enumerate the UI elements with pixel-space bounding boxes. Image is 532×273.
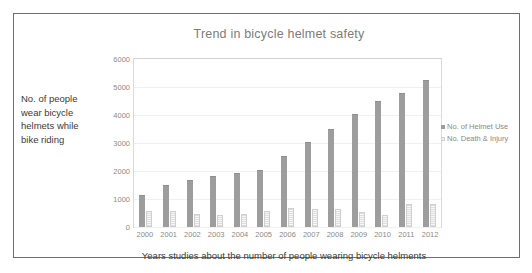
bar-death-injury[interactable] xyxy=(194,214,200,227)
x-axis-tick: 2011 xyxy=(394,230,418,239)
x-axis-tick: 2001 xyxy=(157,230,181,239)
bar-helmet-use[interactable] xyxy=(210,176,216,227)
legend-item-death-injury[interactable]: No. Death & Injury xyxy=(441,134,532,143)
chart-title: Trend in bicycle helmet safety xyxy=(114,27,444,41)
bar-death-injury[interactable] xyxy=(335,209,341,227)
x-axis-tick: 2012 xyxy=(418,230,442,239)
y-axis-tick: 2000 xyxy=(100,167,130,176)
bar-group xyxy=(228,59,252,227)
chart-legend: No. of Helmet Use No. Death & Injury xyxy=(441,122,532,146)
y-axis-tick: 5000 xyxy=(100,83,130,92)
bar-group xyxy=(417,59,441,227)
bar-death-injury[interactable] xyxy=(288,208,294,227)
bar-death-injury[interactable] xyxy=(312,209,318,227)
bar-helmet-use[interactable] xyxy=(281,156,287,227)
gridline xyxy=(134,227,441,228)
x-axis-tick: 2004 xyxy=(228,230,252,239)
legend-swatch-icon xyxy=(441,137,445,141)
chart-frame: Trend in bicycle helmet safety No. of pe… xyxy=(13,13,520,258)
x-axis-tick: 2003 xyxy=(204,230,228,239)
bar-group xyxy=(370,59,394,227)
x-axis-tick-labels: 2000200120022003200420052006200720082009… xyxy=(133,230,442,239)
bar-death-injury[interactable] xyxy=(406,204,412,227)
bar-death-injury[interactable] xyxy=(146,211,152,227)
bar-helmet-use[interactable] xyxy=(375,101,381,227)
bar-group xyxy=(299,59,323,227)
bar-death-injury[interactable] xyxy=(264,211,270,227)
x-axis-tick: 2000 xyxy=(133,230,157,239)
bar-group xyxy=(323,59,347,227)
y-axis-caption-line: No. of people xyxy=(21,92,101,106)
bar-group xyxy=(276,59,300,227)
bar-group xyxy=(346,59,370,227)
bar-helmet-use[interactable] xyxy=(399,93,405,227)
bar-group xyxy=(252,59,276,227)
x-axis-caption: Years studies about the number of people… xyxy=(74,250,494,261)
bar-group xyxy=(134,59,158,227)
y-axis-tick: 6000 xyxy=(100,55,130,64)
y-axis-caption-line: bike riding xyxy=(21,133,101,147)
bar-death-injury[interactable] xyxy=(382,215,388,227)
y-axis-caption-line: helmets while xyxy=(21,119,101,133)
y-axis-tick: 0 xyxy=(100,223,130,232)
plot-area xyxy=(133,58,442,228)
y-axis-caption: No. of people wear bicycle helmets while… xyxy=(21,92,101,146)
y-axis-tick-labels: 6000500040003000200010000 xyxy=(98,58,130,228)
y-axis-caption-line: wear bicycle xyxy=(21,106,101,120)
bar-helmet-use[interactable] xyxy=(139,195,145,227)
bar-death-injury[interactable] xyxy=(359,212,365,227)
y-axis-tick: 1000 xyxy=(100,195,130,204)
bar-helmet-use[interactable] xyxy=(257,170,263,227)
x-axis-tick: 2008 xyxy=(323,230,347,239)
bar-helmet-use[interactable] xyxy=(187,180,193,227)
legend-item-label: No. of Helmet Use xyxy=(447,122,508,131)
y-axis-tick: 3000 xyxy=(100,139,130,148)
y-axis-tick: 4000 xyxy=(100,111,130,120)
x-axis-tick: 2007 xyxy=(299,230,323,239)
bar-group xyxy=(181,59,205,227)
legend-swatch-icon xyxy=(441,125,445,129)
x-axis-tick: 2010 xyxy=(371,230,395,239)
bar-death-injury[interactable] xyxy=(241,214,247,227)
x-axis-tick: 2006 xyxy=(276,230,300,239)
bar-group xyxy=(158,59,182,227)
bar-group xyxy=(205,59,229,227)
legend-item-label: No. Death & Injury xyxy=(447,134,508,143)
bar-death-injury[interactable] xyxy=(217,215,223,227)
bar-helmet-use[interactable] xyxy=(352,114,358,227)
bar-death-injury[interactable] xyxy=(430,204,436,227)
bar-helmet-use[interactable] xyxy=(328,129,334,227)
bar-helmet-use[interactable] xyxy=(423,80,429,227)
x-axis-tick: 2009 xyxy=(347,230,371,239)
bar-helmet-use[interactable] xyxy=(163,185,169,227)
bar-helmet-use[interactable] xyxy=(234,173,240,227)
bars-layer xyxy=(134,59,441,227)
bar-group xyxy=(394,59,418,227)
legend-item-helmet-use[interactable]: No. of Helmet Use xyxy=(441,122,532,131)
x-axis-tick: 2005 xyxy=(252,230,276,239)
bar-helmet-use[interactable] xyxy=(305,142,311,227)
x-axis-tick: 2002 xyxy=(181,230,205,239)
bar-death-injury[interactable] xyxy=(170,211,176,227)
